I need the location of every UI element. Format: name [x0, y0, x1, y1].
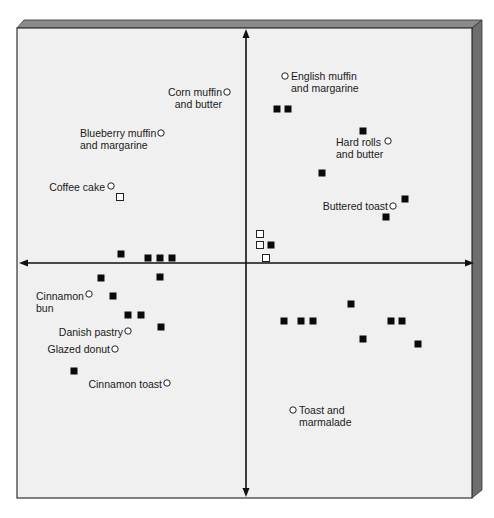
label-hard-rolls: Hard rollsand butter [336, 136, 386, 160]
label-corn-muffin: Corn muffinand butter [165, 86, 222, 110]
product-point-circle-icon [125, 328, 131, 334]
ideal-point-filled-square-icon [298, 318, 305, 325]
caption-cutoff [37, 513, 77, 518]
product-point-circle-icon [164, 380, 170, 386]
product-point-circle-icon [390, 203, 396, 209]
ideal-point-filled-square-icon [118, 251, 125, 258]
frame-bevel-top [17, 20, 482, 28]
product-point-circle-icon [290, 407, 296, 413]
label-line: Coffee cake [40, 181, 105, 193]
product-point-circle-icon [112, 346, 118, 352]
ideal-point-open-square-icon [263, 255, 270, 262]
label-line: and margarine [80, 139, 160, 151]
label-line: and margarine [291, 82, 371, 94]
ideal-point-filled-square-icon [388, 318, 395, 325]
label-danish-pastry: Danish pastry [55, 326, 123, 338]
ideal-point-filled-square-icon [415, 341, 422, 348]
ideal-point-open-square-icon [257, 242, 264, 249]
ideal-point-open-square-icon [117, 194, 124, 201]
ideal-point-filled-square-icon [383, 214, 390, 221]
ideal-point-filled-square-icon [310, 318, 317, 325]
label-line: Cinnamon toast [86, 378, 162, 390]
ideal-point-filled-square-icon [157, 255, 164, 262]
label-line: Hard rolls [336, 136, 386, 148]
ideal-point-filled-square-icon [285, 106, 292, 113]
label-buttered-toast: Buttered toast [320, 200, 388, 212]
perceptual-map: Corn muffinand butterEnglish muffinand m… [0, 0, 494, 518]
product-point-circle-icon [86, 291, 92, 297]
ideal-point-filled-square-icon [158, 324, 165, 331]
label-line: Toast and [299, 404, 359, 416]
product-point-circle-icon [282, 73, 288, 79]
label-line: marmalade [299, 416, 359, 428]
ideal-point-filled-square-icon [399, 318, 406, 325]
ideal-point-filled-square-icon [169, 255, 176, 262]
ideal-point-filled-square-icon [71, 368, 78, 375]
label-glazed-donut: Glazed donut [45, 343, 110, 355]
ideal-point-filled-square-icon [268, 242, 275, 249]
ideal-point-filled-square-icon [348, 301, 355, 308]
label-line: Glazed donut [45, 343, 110, 355]
label-line: and butter [336, 148, 386, 160]
ideal-point-filled-square-icon [274, 106, 281, 113]
ideal-point-filled-square-icon [110, 293, 117, 300]
ideal-point-filled-square-icon [125, 312, 132, 319]
chart-canvas [0, 0, 494, 518]
ideal-point-filled-square-icon [360, 128, 367, 135]
label-line: Buttered toast [320, 200, 388, 212]
label-line: English muffin [291, 70, 371, 82]
label-toast-marmalade: Toast andmarmalade [299, 404, 359, 428]
product-point-circle-icon [224, 89, 230, 95]
frame-bevel-right [472, 20, 482, 498]
label-line: and butter [165, 98, 222, 110]
label-line: bun [36, 302, 86, 314]
ideal-point-filled-square-icon [138, 312, 145, 319]
ideal-point-filled-square-icon [98, 275, 105, 282]
ideal-point-filled-square-icon [319, 170, 326, 177]
ideal-point-filled-square-icon [281, 318, 288, 325]
label-cinnamon-bun: Cinnamonbun [36, 290, 86, 314]
ideal-point-filled-square-icon [402, 196, 409, 203]
label-coffee-cake: Coffee cake [40, 181, 105, 193]
ideal-point-filled-square-icon [145, 255, 152, 262]
label-cinnamon-toast: Cinnamon toast [86, 378, 162, 390]
ideal-point-open-square-icon [257, 231, 264, 238]
label-blueberry-muffin: Blueberry muffinand margarine [80, 127, 160, 151]
label-line: Corn muffin [165, 86, 222, 98]
product-point-circle-icon [108, 183, 114, 189]
label-line: Danish pastry [55, 326, 123, 338]
label-line: Blueberry muffin [80, 127, 160, 139]
ideal-point-filled-square-icon [360, 336, 367, 343]
label-line: Cinnamon [36, 290, 86, 302]
ideal-point-filled-square-icon [157, 274, 164, 281]
label-english-muffin: English muffinand margarine [291, 70, 371, 94]
